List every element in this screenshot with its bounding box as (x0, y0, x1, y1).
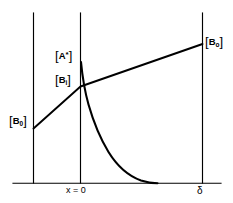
delta-tick-label: δ (197, 186, 203, 196)
label-b-o: [Bo] (205, 35, 223, 49)
symbol-b-i: B (59, 74, 66, 85)
figure-canvas (0, 0, 233, 203)
bracket-close-b-0: ] (23, 113, 27, 128)
bracket-close-b-o: ] (219, 34, 223, 49)
symbol-b-0: B (13, 115, 20, 126)
bracket-close-a-star: ] (69, 48, 73, 63)
concentration-profile-figure: [A*] [Bi] [B0] [Bo] x = 0 δ (0, 0, 233, 203)
label-b-i: [Bi] (55, 73, 71, 87)
symbol-b-o: B (209, 36, 216, 47)
symbol-a-star: A (59, 50, 66, 61)
bracket-close-b-i: ] (67, 72, 71, 87)
a-star-decay-curve (81, 62, 158, 183)
label-a-star: [A*] (55, 49, 72, 62)
label-b-0: [B0] (9, 114, 27, 128)
x-origin-tick-label: x = 0 (66, 186, 86, 195)
